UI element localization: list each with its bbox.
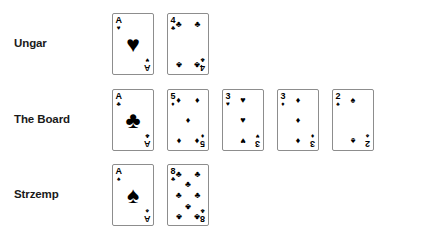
hand-row-board: The Board A♣A♣♣5♦5♦♦♦♦♦♦3♥3♥♥♥♥3♦3♦♦♦♦2♠… (0, 82, 434, 158)
card-suit-diamond-icon: ♦ (311, 133, 314, 140)
card-suit-diamond-icon: ♦ (201, 133, 204, 140)
pip-club-icon: ♣ (194, 60, 200, 69)
pip-diamond-icon: ♦ (176, 136, 181, 145)
card-rank: 3 (255, 140, 260, 148)
card-rank: 2 (365, 140, 370, 148)
pip-diamond-icon: ♦ (195, 136, 200, 145)
card-suit-club-icon: ♣ (201, 208, 205, 215)
pip-club-icon: ♣ (176, 60, 182, 69)
card-pip-field: ♦♦♦♦♦ (175, 96, 201, 144)
card-pip-field: ♠♠ (340, 96, 366, 144)
pip-club-icon: ♣ (176, 191, 182, 200)
pip-diamond-icon: ♦ (296, 95, 301, 104)
card-group-strzemp: A♠A♠♠8♣8♣♣♣♣♣♣♣♣♣ (112, 164, 209, 226)
card-rank: 4 (200, 64, 205, 72)
pip-club-icon: ♣ (194, 191, 200, 200)
row-label-strzemp: Strzemp (0, 189, 112, 201)
card-corner-index-br: 8♣ (200, 208, 205, 223)
card-corner-index-br: 3♥ (255, 133, 260, 148)
pip-club-icon: ♣ (194, 212, 200, 221)
pip-club-icon: ♣ (125, 109, 140, 132)
row-label-ungar: Ungar (0, 38, 112, 50)
playing-card-ace-of-clubs: A♣A♣♣ (112, 89, 154, 151)
playing-card-eight-of-clubs: 8♣8♣♣♣♣♣♣♣♣♣ (167, 164, 209, 226)
card-corner-index-br: 4♣ (200, 57, 205, 72)
card-corner-index-br: 3♦ (310, 133, 315, 148)
card-pip-field: ♣♣♣♣ (175, 20, 201, 68)
playing-card-three-of-diamonds: 3♦3♦♦♦♦ (277, 89, 319, 151)
pip-spade-icon: ♠ (351, 136, 356, 145)
playing-card-four-of-clubs: 4♣4♣♣♣♣♣ (167, 13, 209, 75)
card-pip-field: ♥ (120, 20, 146, 68)
pip-club-icon: ♣ (194, 169, 200, 178)
pip-diamond-icon: ♦ (176, 95, 181, 104)
pip-heart-icon: ♥ (240, 95, 245, 104)
pip-diamond-icon: ♦ (296, 116, 301, 125)
pip-diamond-icon: ♦ (195, 95, 200, 104)
card-pip-field: ♦♦♦ (285, 96, 311, 144)
card-rank: 5 (200, 140, 205, 148)
pip-heart-icon: ♥ (240, 136, 245, 145)
card-pip-field: ♣ (120, 96, 146, 144)
pip-club-icon: ♣ (185, 180, 191, 189)
pip-club-icon: ♣ (176, 169, 182, 178)
pip-club-icon: ♣ (176, 212, 182, 221)
pip-club-icon: ♣ (194, 19, 200, 28)
pip-club-icon: ♣ (185, 201, 191, 210)
pip-club-icon: ♣ (176, 19, 182, 28)
playing-card-ace-of-hearts: A♥A♥♥ (112, 13, 154, 75)
card-suit-heart-icon: ♥ (256, 133, 260, 140)
card-pip-field: ♠ (120, 171, 146, 219)
pip-spade-icon: ♠ (127, 184, 139, 207)
pip-heart-icon: ♥ (126, 33, 140, 56)
card-suit-spade-icon: ♠ (366, 133, 369, 140)
poker-hand-diagram: Ungar A♥A♥♥4♣4♣♣♣♣♣ The Board A♣A♣♣5♦5♦♦… (0, 0, 434, 239)
card-corner-index-br: 2♠ (365, 133, 370, 148)
card-suit-club-icon: ♣ (201, 57, 205, 64)
card-pip-field: ♣♣♣♣♣♣♣♣ (175, 171, 201, 219)
playing-card-five-of-diamonds: 5♦5♦♦♦♦♦♦ (167, 89, 209, 151)
card-rank: 3 (310, 140, 315, 148)
card-pip-field: ♥♥♥ (230, 96, 256, 144)
card-rank: 8 (200, 215, 205, 223)
pip-heart-icon: ♥ (240, 116, 245, 125)
playing-card-two-of-spades: 2♠2♠♠♠ (332, 89, 374, 151)
card-group-board: A♣A♣♣5♦5♦♦♦♦♦♦3♥3♥♥♥♥3♦3♦♦♦♦2♠2♠♠♠ (112, 89, 374, 151)
pip-diamond-icon: ♦ (296, 136, 301, 145)
row-label-board: The Board (0, 114, 112, 126)
card-corner-index-br: 5♦ (200, 133, 205, 148)
playing-card-ace-of-spades: A♠A♠♠ (112, 164, 154, 226)
pip-diamond-icon: ♦ (186, 116, 191, 125)
playing-card-three-of-hearts: 3♥3♥♥♥♥ (222, 89, 264, 151)
hand-row-strzemp: Strzemp A♠A♠♠8♣8♣♣♣♣♣♣♣♣♣ (0, 157, 434, 233)
pip-spade-icon: ♠ (351, 95, 356, 104)
card-suit-spade-icon: ♠ (146, 208, 149, 215)
hand-row-ungar: Ungar A♥A♥♥4♣4♣♣♣♣♣ (0, 6, 434, 82)
card-group-ungar: A♥A♥♥4♣4♣♣♣♣♣ (112, 13, 209, 75)
